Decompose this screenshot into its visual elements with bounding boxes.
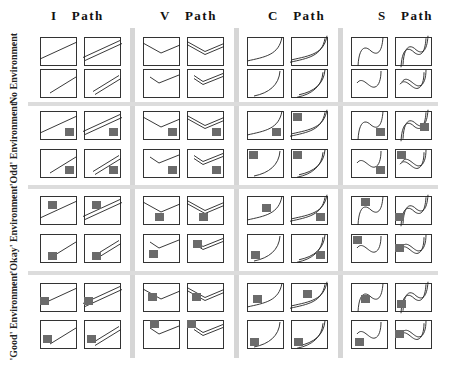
path-diagram (40, 196, 77, 225)
obstacle-square (376, 166, 385, 174)
cell-c-path-odd-env-single-partial (247, 149, 284, 178)
cell-s-path-okay-env-double-partial (395, 234, 432, 263)
path-diagram (40, 320, 77, 349)
path-diagram (291, 320, 328, 349)
path-diagram (291, 283, 328, 312)
path-diagram (40, 283, 77, 312)
path-diagram (351, 196, 388, 225)
obstacle-square (48, 252, 57, 260)
cell-v-path-okay-env-single-full (143, 196, 180, 225)
cell-s-path-good-env-single-partial (351, 320, 388, 349)
path-diagram (395, 111, 432, 140)
path-diagram (395, 283, 432, 312)
path-diagram (40, 111, 77, 140)
cell-c-path-okay-env-double-partial (291, 234, 328, 263)
path-diagram (395, 69, 432, 98)
obstacle-square (420, 123, 429, 131)
obstacle-square (395, 213, 404, 221)
cell-c-path-odd-env-double-partial (291, 149, 328, 178)
obstacle-square (397, 151, 406, 159)
path-diagram (247, 320, 284, 349)
path-diagram (143, 234, 180, 263)
path-diagram (84, 37, 121, 66)
obstacle-square (293, 113, 302, 121)
row-divider (28, 185, 438, 189)
cell-s-path-odd-env-single-partial (351, 149, 388, 178)
path-diagram (395, 149, 432, 178)
obstacle-square (65, 166, 74, 174)
cell-i-path-no-env-double-full (84, 37, 121, 66)
obstacle-square (187, 320, 196, 328)
obstacle-square (395, 244, 404, 252)
row-label-odd-environment: 'Odd' Environment (6, 111, 22, 178)
path-diagram (291, 196, 328, 225)
column-title-v-path: V Path (160, 8, 217, 24)
path-diagram (291, 149, 328, 178)
path-diagram (247, 111, 284, 140)
cell-s-path-odd-env-double-full (395, 111, 432, 140)
path-diagram (143, 149, 180, 178)
cell-s-path-odd-env-double-partial (395, 149, 432, 178)
path-diagram (187, 37, 224, 66)
column-title-c-path: C Path (268, 8, 325, 24)
path-diagram (84, 111, 121, 140)
path-diagram (247, 283, 284, 312)
obstacle-square (92, 252, 101, 260)
cell-c-path-good-env-double-full (291, 283, 328, 312)
path-diagram (247, 196, 284, 225)
column-divider (234, 28, 239, 358)
path-diagram (143, 320, 180, 349)
obstacle-square (294, 338, 303, 346)
obstacle-square (149, 250, 158, 258)
obstacle-square (376, 128, 385, 136)
path-diagram (247, 149, 284, 178)
obstacle-square (193, 240, 202, 248)
cell-s-path-odd-env-single-full (351, 111, 388, 140)
cell-s-path-no-env-double-full (395, 37, 432, 66)
cell-v-path-odd-env-single-partial (143, 149, 180, 178)
cell-v-path-no-env-single-full (143, 37, 180, 66)
cell-s-path-good-env-double-partial (395, 320, 432, 349)
cell-i-path-good-env-single-full (40, 283, 77, 312)
cell-i-path-good-env-double-full (84, 283, 121, 312)
path-diagram (395, 320, 432, 349)
cell-v-path-okay-env-double-partial (187, 234, 224, 263)
cell-s-path-okay-env-double-full (395, 196, 432, 225)
path-diagram (351, 320, 388, 349)
cell-c-path-no-env-single-full (247, 37, 284, 66)
path-diagram (143, 111, 180, 140)
path-diagram (187, 196, 224, 225)
cell-i-path-no-env-single-full (40, 37, 77, 66)
cell-v-path-good-env-single-partial (143, 320, 180, 349)
path-diagram (247, 234, 284, 263)
path-diagram (143, 196, 180, 225)
path-diagram (291, 69, 328, 98)
path-diagram (187, 69, 224, 98)
obstacle-square (40, 297, 49, 305)
column-divider (338, 28, 343, 358)
obstacle-square (92, 201, 101, 209)
cell-i-path-okay-env-single-partial (40, 234, 77, 263)
cell-s-path-no-env-double-partial (395, 69, 432, 98)
obstacle-square (293, 151, 302, 159)
column-title-s-path: S Path (378, 8, 433, 24)
path-diagram (187, 234, 224, 263)
obstacle-square (43, 335, 52, 343)
path-diagram (247, 69, 284, 98)
obstacle-square (109, 166, 118, 174)
cell-i-path-okay-env-single-full (40, 196, 77, 225)
path-diagram (84, 234, 121, 263)
path-diagram (143, 69, 180, 98)
path-diagram (84, 69, 121, 98)
cell-i-path-no-env-double-partial (84, 69, 121, 98)
obstacle-square (109, 128, 118, 136)
row-label-no-environment: No Environment (6, 37, 22, 99)
cell-i-path-odd-env-single-partial (40, 149, 77, 178)
obstacle-square (249, 151, 258, 159)
obstacle-square (303, 290, 312, 298)
obstacle-square (253, 295, 262, 303)
path-diagram (395, 37, 432, 66)
obstacle-square (395, 330, 404, 338)
path-diagram (351, 149, 388, 178)
path-diagram (40, 149, 77, 178)
